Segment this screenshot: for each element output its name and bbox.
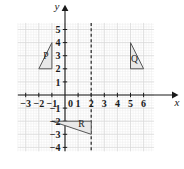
- y-tick-label: 5: [56, 24, 61, 35]
- y-tick-label: 2: [56, 63, 61, 74]
- triangle-r-label: R: [78, 119, 85, 129]
- triangle-q-label: Q: [131, 54, 138, 64]
- x-tick-label: 4: [115, 98, 120, 109]
- y-tick-label: 1: [56, 77, 61, 88]
- coordinate-plane-svg: −3−2−10123456−4−3−2−112345 xy PQR: [0, 0, 184, 169]
- y-axis-label: y: [54, 0, 60, 12]
- x-tick-label: 5: [128, 98, 133, 109]
- x-tick-label: 6: [141, 98, 146, 109]
- y-tick-label: 4: [56, 37, 61, 48]
- triangle-p-label: P: [43, 51, 48, 61]
- x-tick-label: 3: [102, 98, 107, 109]
- y-tick-label: −1: [50, 103, 61, 114]
- x-tick-label: 1: [76, 98, 81, 109]
- coordinate-plane-figure: −3−2−10123456−4−3−2−112345 xy PQR: [0, 0, 184, 169]
- y-tick-label: 3: [56, 50, 61, 61]
- y-tick-label: −4: [50, 142, 61, 153]
- x-tick-label: 0: [68, 98, 73, 109]
- y-tick-label: −3: [50, 129, 61, 140]
- x-tick-label: 2: [89, 98, 94, 109]
- x-tick-label: −2: [33, 98, 44, 109]
- x-tick-label: −3: [20, 98, 31, 109]
- x-axis-label: x: [174, 96, 180, 108]
- y-tick-label: −2: [50, 116, 61, 127]
